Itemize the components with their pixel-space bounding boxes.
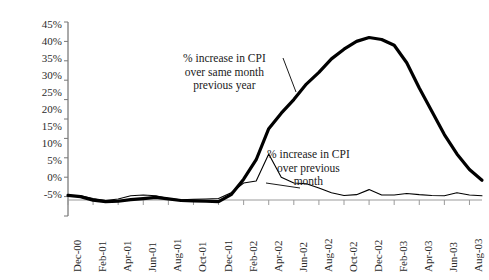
x-tick-label: Dec-01 xyxy=(223,240,234,272)
x-tick-label: Oct-02 xyxy=(348,241,359,272)
x-tick-label: Aug-02 xyxy=(323,238,334,272)
y-tick-label: 35% xyxy=(20,53,62,64)
annotation-line: over same month xyxy=(183,66,266,80)
x-tick-label: Dec-02 xyxy=(373,240,384,272)
x-tick-label: Apr-01 xyxy=(122,240,133,272)
x-tick-label: Feb-02 xyxy=(248,241,259,272)
x-tick-label: Jun-03 xyxy=(448,242,459,272)
x-tick-label: Aug-03 xyxy=(473,238,484,272)
x-tick-label: Dec-00 xyxy=(72,240,83,272)
x-tick-label: Oct-01 xyxy=(197,241,208,272)
y-tick-label: 15% xyxy=(20,121,62,132)
x-tick-label: Aug-01 xyxy=(172,238,183,272)
y-tick-label: 10% xyxy=(20,138,62,149)
y-axis-ticks xyxy=(64,22,68,216)
y-tick-label: 0% xyxy=(20,172,62,183)
x-tick-label: Apr-02 xyxy=(273,240,284,272)
mom-annotation: % increase in CPIover previousmonth xyxy=(267,148,350,189)
x-tick-label: Jun-01 xyxy=(147,242,158,272)
y-tick-label: 30% xyxy=(20,70,62,81)
annotation-line: over previous xyxy=(267,162,350,176)
x-tick-label: Jun-02 xyxy=(298,242,309,272)
x-tick-label: Feb-01 xyxy=(97,241,108,272)
x-tick-label: Apr-03 xyxy=(423,240,434,272)
annotation-line: % increase in CPI xyxy=(183,52,266,66)
annotation-leader xyxy=(283,58,296,92)
y-tick-label: 20% xyxy=(20,104,62,115)
x-tick-label: Feb-03 xyxy=(398,241,409,272)
y-tick-label: 45% xyxy=(20,19,62,30)
annotation-line: month xyxy=(267,175,350,189)
annotation-line: previous year xyxy=(183,79,266,93)
cpi-inflation-chart: 45% 40% 35% 30% 25% 20% 15% 10% 5% 0% -5… xyxy=(0,0,489,280)
plot-area xyxy=(0,0,489,280)
y-tick-label: 25% xyxy=(20,87,62,98)
y-tick-label: -5% xyxy=(20,189,62,200)
y-tick-label: 5% xyxy=(20,155,62,166)
y-tick-label: 40% xyxy=(20,36,62,47)
annotation-line: % increase in CPI xyxy=(267,148,350,162)
yoy-annotation: % increase in CPIover same monthprevious… xyxy=(183,52,266,93)
